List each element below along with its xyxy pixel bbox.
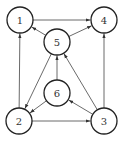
- node-label: 1: [17, 15, 23, 26]
- node-5: 5: [44, 29, 70, 55]
- edge-5-to-4: [69, 26, 92, 37]
- edge-5-to-1: [32, 27, 46, 35]
- node-label: 2: [16, 116, 22, 127]
- directed-graph: 145623: [0, 0, 121, 146]
- edge-3-to-6: [69, 100, 93, 114]
- node-6: 6: [44, 80, 70, 106]
- nodes-layer: 145623: [6, 7, 117, 134]
- node-4: 4: [91, 7, 117, 33]
- node-label: 6: [54, 88, 60, 99]
- edge-3-to-5: [64, 54, 97, 110]
- node-label: 4: [101, 15, 107, 26]
- node-label: 5: [54, 37, 60, 48]
- node-3: 3: [91, 108, 117, 134]
- node-1: 1: [7, 7, 33, 33]
- edge-2-to-1: [19, 33, 20, 108]
- node-2: 2: [6, 108, 32, 134]
- node-label: 3: [101, 116, 107, 127]
- edge-6-to-2: [30, 101, 47, 113]
